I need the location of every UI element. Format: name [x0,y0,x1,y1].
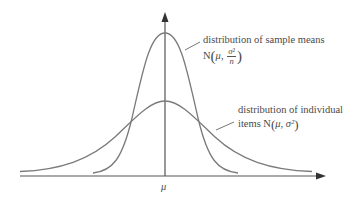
mean-axis-arrow-icon [162,12,169,22]
mu-axis-label: μ [161,180,166,193]
sigma-squared: σ² [286,118,294,129]
sample-means-formula: N(μ, σ²n) [203,47,325,66]
normal-symbol: N [203,50,211,61]
individual-items-label: distribution of individual items N(μ, σ²… [238,103,343,131]
sample-means-label: distribution of sample means N(μ, σ²n) [203,33,325,66]
diagram-canvas [0,0,359,197]
individual-leader-line [216,122,234,130]
normal-distributions-diagram: distribution of sample means N(μ, σ²n) d… [0,0,359,197]
sample-means-label-text: distribution of sample means [203,33,325,46]
individual-formula: items N(μ, σ²) [238,117,343,131]
separator: , [221,50,224,61]
individual-label-text: distribution of individual [238,103,343,116]
sample-means-leader-line [185,42,200,50]
fraction-denominator: n [227,57,236,66]
variance-fraction: σ²n [227,47,236,66]
items-normal-prefix: items N [238,118,271,129]
x-axis-arrow-icon [316,173,326,180]
